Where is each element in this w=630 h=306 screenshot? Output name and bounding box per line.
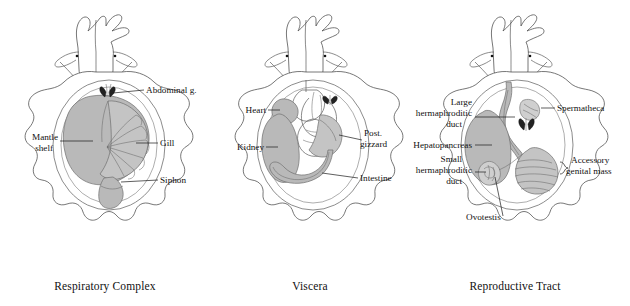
- svg-text:Small: Small: [441, 154, 463, 164]
- caption-respiratory-complex: Respiratory Complex: [0, 280, 210, 292]
- label-abdominal-gland: Abdominal g.: [146, 85, 197, 95]
- svg-text:Mantle: Mantle: [32, 132, 58, 142]
- head-region: [470, 15, 552, 78]
- label-accessory-genital-mass: Accessory genital mass: [566, 155, 612, 176]
- panel-respiratory-complex: Abdominal g. Mantle shelf Gill Siphon Re…: [0, 0, 210, 306]
- label-heart: Heart: [246, 105, 267, 115]
- svg-text:Accessory: Accessory: [571, 155, 610, 165]
- label-ovotestis: Ovotestis: [466, 212, 501, 222]
- panel-viscera: Heart Kidney Post. gizzard Intestine Vis…: [210, 0, 410, 306]
- small-hermaphroditic-duct-organ: [478, 161, 500, 185]
- svg-text:hermaphroditic: hermaphroditic: [416, 108, 472, 118]
- svg-text:shelf: shelf: [35, 143, 54, 153]
- caption-viscera: Viscera: [210, 280, 410, 292]
- label-spermatheca: Spermatheca: [557, 103, 604, 113]
- svg-text:duct: duct: [446, 176, 462, 186]
- panel-reproductive-tract: Large hermaphroditic duct Hepatopancreas…: [400, 0, 630, 306]
- svg-text:Large: Large: [451, 97, 472, 107]
- label-hepatopancreas: Hepatopancreas: [413, 140, 472, 150]
- reproductive-diagram: Large hermaphroditic duct Hepatopancreas…: [400, 0, 630, 280]
- viscera-diagram: Heart Kidney Post. gizzard Intestine: [210, 0, 410, 280]
- label-gill: Gill: [160, 138, 175, 148]
- caption-reproductive-tract: Reproductive Tract: [400, 280, 630, 292]
- head-region: [55, 15, 137, 78]
- respiratory-diagram: Abdominal g. Mantle shelf Gill Siphon: [0, 0, 210, 280]
- svg-text:duct: duct: [446, 119, 462, 129]
- label-intestine: Intestine: [360, 173, 392, 183]
- svg-text:hermaphroditic: hermaphroditic: [416, 165, 472, 175]
- label-siphon: Siphon: [160, 175, 186, 185]
- svg-text:genital mass: genital mass: [566, 166, 612, 176]
- anatomical-figure: Abdominal g. Mantle shelf Gill Siphon Re…: [0, 0, 630, 306]
- head-region: [265, 15, 347, 78]
- label-kidney: Kidney: [237, 142, 264, 152]
- svg-text:gizzard: gizzard: [360, 139, 387, 149]
- svg-text:Post.: Post.: [364, 128, 382, 138]
